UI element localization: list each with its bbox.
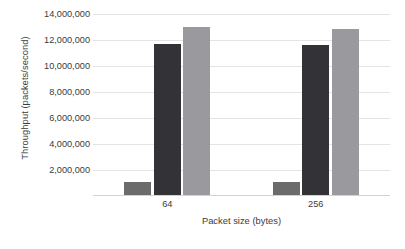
plot-area	[93, 14, 390, 196]
x-axis-title: Packet size (bytes)	[93, 215, 390, 226]
y-tick-label: 14,000,000	[24, 9, 90, 19]
x-axis-line	[93, 195, 390, 196]
bar-group	[242, 14, 391, 196]
bar-series-1-256	[273, 182, 300, 196]
y-tick-label: 2,000,000	[24, 165, 90, 175]
bar-chart: Throughput (packets/second) 2,000,0004,0…	[0, 0, 405, 249]
y-tick-label: 6,000,000	[24, 113, 90, 123]
x-tick-label: 256	[242, 199, 391, 209]
bar-series-3-64	[183, 27, 210, 196]
y-tick-label: 12,000,000	[24, 35, 90, 45]
y-tick-label: 10,000,000	[24, 61, 90, 71]
y-tick-label: 4,000,000	[24, 139, 90, 149]
y-tick-label: 8,000,000	[24, 87, 90, 97]
bar-group	[93, 14, 242, 196]
bar-series-3-256	[332, 29, 359, 196]
x-tick-label: 64	[93, 199, 242, 209]
bars-layer	[93, 14, 390, 196]
bar-series-2-64	[154, 44, 181, 196]
y-axis-tick-labels: 2,000,0004,000,0006,000,0008,000,00010,0…	[24, 0, 90, 249]
bar-series-2-256	[302, 45, 329, 196]
bar-series-1-64	[124, 182, 151, 196]
x-axis-tick-labels: 64256	[93, 199, 390, 213]
